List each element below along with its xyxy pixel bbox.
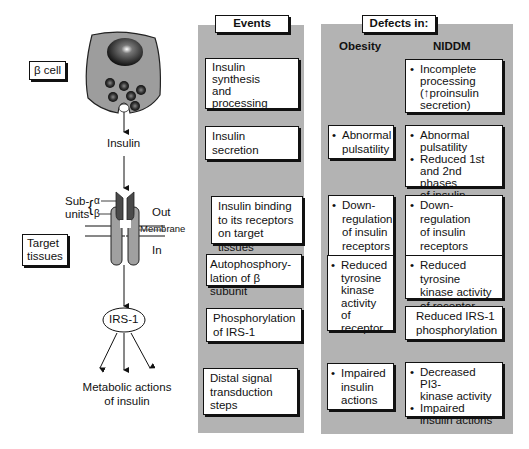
event-step-5: Phosphorylationof IRS-1 <box>206 308 302 342</box>
insulin-label: Insulin <box>107 137 140 149</box>
event-step-2: Insulinsecretion <box>205 126 299 160</box>
niddm-defect-processing: Incompleteprocessing(↑proinsulinsecretio… <box>405 59 503 113</box>
alpha-label: α <box>94 195 100 206</box>
target-tissues-label: Target tissues <box>22 234 68 266</box>
event-step-6: Distal signaltransductionsteps <box>203 368 298 415</box>
niddm-defect-distal: Decreased PI3-kinase activity Impairedin… <box>405 362 503 417</box>
beta-cell-icon <box>86 32 160 113</box>
obesity-defect-autophosphorylation: Reducedtyrosinekinaseactivityof receptor <box>327 255 394 331</box>
niddm-defect-binding: Down-regulationof insulinreceptors <box>405 195 503 258</box>
beta-cell-label: β cell <box>29 61 66 80</box>
niddm-defect-irs1: Reduced IRS-1phosphorylation <box>405 306 503 340</box>
defects-header: Defects in: <box>362 15 436 33</box>
column-header-obesity: Obesity <box>339 40 381 52</box>
niddm-defect-secretion: Abnormalpulsatility Reduced 1stand 2nd p… <box>405 125 503 187</box>
out-label: Out <box>152 206 171 218</box>
obesity-defect-secretion: Abnormalpulsatility <box>328 125 394 159</box>
subunits-label: Sub- units <box>65 195 89 221</box>
obesity-defect-binding: Down-regulationof insulinreceptors <box>328 195 394 258</box>
brace-icon: { <box>88 194 93 220</box>
membrane-label: Membrane <box>140 223 185 234</box>
beta-label: β <box>94 208 100 219</box>
events-header: Events <box>215 15 289 33</box>
event-step-1: Insulinsynthesisandprocessing <box>205 58 299 109</box>
event-step-4: Autophosphory-lation of β subunit <box>206 254 302 286</box>
column-header-niddm: NIDDM <box>433 40 471 52</box>
in-label: In <box>152 244 162 256</box>
obesity-defect-distal: Impairedinsulinactions <box>327 363 394 410</box>
event-step-3: Insulin bindingto its receptorson target… <box>211 196 303 244</box>
niddm-defect-autophosphorylation: Reduced tyrosinekinase activityof recept… <box>405 255 503 299</box>
metabolic-actions-label: Metabolic actions of insulin <box>82 380 172 408</box>
irs1-label: IRS-1 <box>109 313 138 325</box>
